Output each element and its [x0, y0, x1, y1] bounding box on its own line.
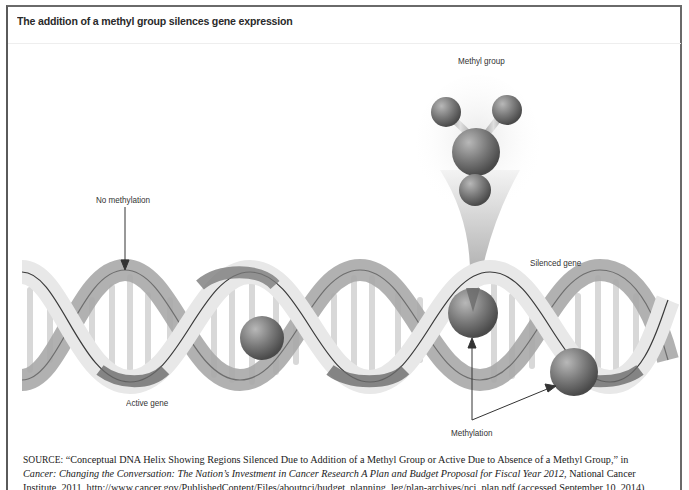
- source-line-1: “Conceptual DNA Helix Showing Regions Si…: [66, 454, 629, 465]
- methyl-sphere-3: [550, 348, 598, 396]
- source-publisher: , National Cancer: [564, 468, 636, 479]
- dna-methylation-diagram: [0, 0, 689, 450]
- label-silenced-gene: Silenced gene: [530, 258, 581, 268]
- label-active-gene: Active gene: [126, 398, 168, 408]
- source-citation: SOURCE: “Conceptual DNA Helix Showing Re…: [23, 453, 683, 490]
- methyl-sphere-1: [240, 316, 284, 360]
- label-methylation: Methylation: [451, 428, 492, 438]
- source-prefix: SOURCE:: [23, 455, 63, 465]
- source-line-3: Institute, 2011, http://www.cancer.gov/P…: [23, 482, 644, 490]
- label-methyl-group: Methyl group: [458, 56, 505, 66]
- label-no-methylation: No methylation: [96, 195, 150, 205]
- source-book-title: Cancer: Changing the Conversation: The N…: [23, 468, 564, 479]
